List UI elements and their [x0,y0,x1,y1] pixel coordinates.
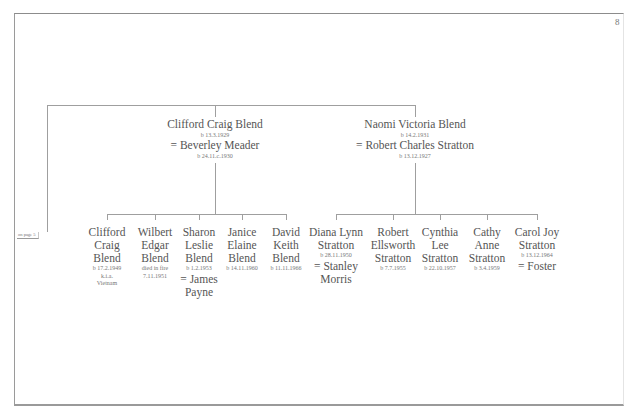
clifford-drop-line [215,105,216,117]
document-page [14,13,624,406]
sibling-bracket-line [47,105,416,106]
parent-birth: b 14.2.1931 [345,131,485,139]
child-detail: b 28.11.1950 [303,252,369,260]
child-tick [440,214,441,220]
parent-name: Clifford Craig Blend [155,118,275,131]
spouse-name: = Beverley Meader [155,139,275,152]
child-tick [487,214,488,220]
child-name: Stratton [505,239,569,252]
stratton-descent-line [415,163,416,215]
child-carol: Carol Joy Stratton b 13.12.1964 = Foster [505,226,569,273]
child-name: Stratton [303,239,369,252]
child-tick [155,214,156,220]
page-number: 8 [615,17,620,27]
child-name: Carol Joy [505,226,569,239]
child-detail: Vietnam [77,280,137,288]
stratton-children-bar [336,214,538,215]
child-diana: Diana Lynn Stratton b 28.11.1950 = Stanl… [303,226,369,286]
child-name: Diana Lynn [303,226,369,239]
child-tick [393,214,394,220]
spouse-birth: b 24.11.c.1930 [155,152,275,160]
child-tick [107,214,108,220]
child-spouse: = Stanley [303,260,369,273]
child-tick [537,214,538,220]
child-spouse: = James [169,273,229,286]
parent-couple-stratton: Naomi Victoria Blend b 14.2.1931 = Rober… [345,118,485,160]
parent-birth: b 13.3.1929 [155,131,275,139]
blend-descent-line [215,163,216,215]
child-tick [286,214,287,220]
child-tick [242,214,243,220]
child-detail: b 13.12.1964 [505,252,569,260]
parent-couple-blend: Clifford Craig Blend b 13.3.1929 = Bever… [155,118,275,160]
child-tick [336,214,337,220]
ancestor-link-line [47,105,48,232]
child-spouse: = Foster [505,260,569,273]
naomi-drop-line [415,105,416,117]
cross-reference-label: on page 5 [17,232,39,239]
child-spouse: Payne [169,286,229,299]
parent-name: Naomi Victoria Blend [345,118,485,131]
blend-children-bar [107,214,287,215]
child-spouse: Morris [303,273,369,286]
child-tick [199,214,200,220]
spouse-birth: b 13.12.1927 [345,152,485,160]
spouse-name: = Robert Charles Stratton [345,139,485,152]
